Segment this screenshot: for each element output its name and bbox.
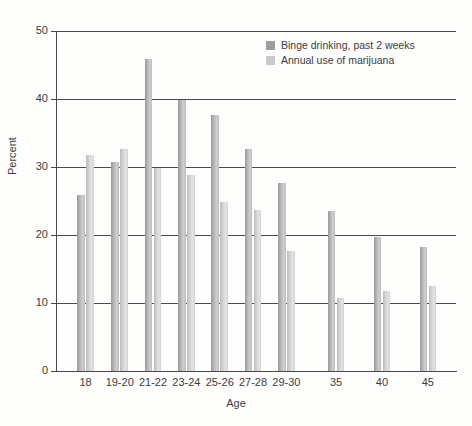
legend-swatch-icon [266,56,275,65]
legend-swatch-icon [266,41,275,50]
x-axis-tick-label: 18 [80,376,92,388]
x-axis-tick-label: 40 [376,376,388,388]
bar-45-series1 [420,247,428,371]
gridline [56,99,456,100]
bar-21-22-series1 [145,59,153,371]
x-axis-tick-label: 25-26 [206,376,234,388]
bar-25-26-series1 [211,115,219,371]
bar-18-series2 [86,155,94,371]
bar-29-30-series2 [287,251,295,371]
plot-area [56,31,456,371]
x-axis-tick-label: 21-22 [139,376,167,388]
bar-29-30-series1 [278,183,286,371]
y-axis-tick-label: 10 [8,297,48,308]
y-axis-tick-label: 50 [8,25,48,36]
bar-19-20-series1 [111,162,119,371]
bar-40-series1 [374,237,382,371]
bar-23-24-series1 [178,100,186,371]
bar-25-26-series2 [220,202,228,371]
x-axis-tick-label: 23-24 [172,376,200,388]
gridline [56,31,456,32]
y-axis-tick-label: 30 [8,161,48,172]
bar-45-series2 [429,286,437,371]
x-axis-tick-label: 19-20 [106,376,134,388]
y-axis-tick [51,371,56,372]
bar-21-22-series2 [154,168,162,371]
bar-35-series2 [337,298,345,371]
y-axis-tick-label: 40 [8,93,48,104]
x-axis-tick-label: 35 [330,376,342,388]
x-axis-line [56,371,457,372]
bar-35-series1 [328,211,336,371]
bar-27-28-series2 [254,210,262,371]
bar-chart: Percent 01020304050 1819-2021-2223-2425-… [0,0,472,426]
bar-23-24-series2 [187,175,195,371]
bar-19-20-series2 [120,149,128,371]
legend-item-2: Annual use of marijuana [266,55,415,67]
y-axis-tick-label: 0 [8,365,48,376]
x-axis-tick-label: 27-28 [239,376,267,388]
legend-label: Binge drinking, past 2 weeks [281,40,415,52]
legend-label: Annual use of marijuana [281,55,394,67]
bar-18-series1 [77,195,85,371]
x-axis-tick-label: 29-30 [272,376,300,388]
x-axis-tick-label: 45 [422,376,434,388]
chart-legend: Binge drinking, past 2 weeksAnnual use o… [266,40,415,69]
bar-27-28-series1 [245,149,253,371]
legend-item-1: Binge drinking, past 2 weeks [266,40,415,52]
x-axis-title-text: Age [226,397,246,409]
bar-40-series2 [383,291,391,371]
x-axis-title: Age [0,397,472,409]
y-axis-tick-label: 20 [8,229,48,240]
